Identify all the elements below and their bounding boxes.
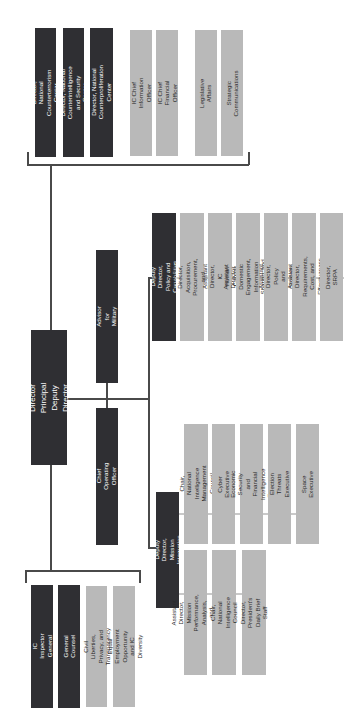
top-bracket-bar xyxy=(27,164,249,166)
node-director[interactable]: Director Principal Deputy Director xyxy=(31,330,67,465)
node-ad-requirements[interactable]: Assistant Director, Requirements, Cost, … xyxy=(292,213,316,341)
node-chief-operating-officer[interactable]: Chief Operating Officer xyxy=(96,408,118,545)
node-ic-inspector-general[interactable]: IC Inspector General xyxy=(31,585,53,708)
node-strategic-communications[interactable]: Strategic Communications xyxy=(221,30,243,156)
bottom-bracket-bar xyxy=(25,570,140,572)
node-legislative-affairs[interactable]: Legislative Affairs xyxy=(195,30,217,156)
advisor-coo-vertical xyxy=(106,383,108,409)
deputies-vertical xyxy=(148,277,150,548)
node-election-threats-executive[interactable]: Election Threats Executive xyxy=(268,424,291,544)
node-eeo-diversity[interactable]: Equal Employment Opportunity and IC Dive… xyxy=(113,586,135,707)
node-ad-policy-strategy[interactable]: Assistant Director, Policy and Strategy xyxy=(264,213,288,341)
node-econ-security-executive[interactable]: Economic Security and Financial Intellig… xyxy=(240,424,263,544)
node-military-affairs-advisor[interactable]: Director's Advisor for Military Affairs xyxy=(96,250,118,383)
node-civil-liberties[interactable]: Civil Liberties, Privacy, and Transparen… xyxy=(86,586,107,707)
node-director-srpa[interactable]: Director, SRPA xyxy=(320,213,343,341)
node-nctc[interactable]: Director, National Counterterrorism Cent… xyxy=(35,28,56,157)
node-ic-cio[interactable]: IC Chief Information Officer xyxy=(130,30,152,156)
director-horizontal xyxy=(67,398,150,400)
node-ic-cfo[interactable]: IC Chief Financial Officer xyxy=(156,30,178,156)
bottom-bracket-left-tick xyxy=(25,570,27,583)
top-bracket-left-tick xyxy=(27,152,29,165)
node-ncpc[interactable]: Director, National Counterproliferation … xyxy=(90,28,113,157)
top-bracket-right-tick xyxy=(248,152,250,165)
node-space-executive[interactable]: Space Executive xyxy=(296,424,319,544)
node-ad-mission-performance[interactable]: Assistant Director, Mission Performance,… xyxy=(184,550,207,675)
bottom-bracket-right-tick xyxy=(139,570,141,583)
node-general-counsel[interactable]: General Counsel xyxy=(58,585,80,708)
top-stem xyxy=(50,164,52,330)
node-chair-nimc[interactable]: Chair, National Intelligence Management … xyxy=(184,424,208,544)
node-ncsc[interactable]: Director, National Counterintelligence a… xyxy=(63,28,84,157)
node-director-pdb-staff[interactable]: Director, President's Daily Brief Staff xyxy=(242,550,266,675)
node-dd-mission-integration[interactable]: Deputy Director, Mission Integration xyxy=(156,492,179,608)
bottom-stem xyxy=(50,465,52,571)
node-chair-nic[interactable]: Chair, National Intelligence Council xyxy=(212,550,236,675)
